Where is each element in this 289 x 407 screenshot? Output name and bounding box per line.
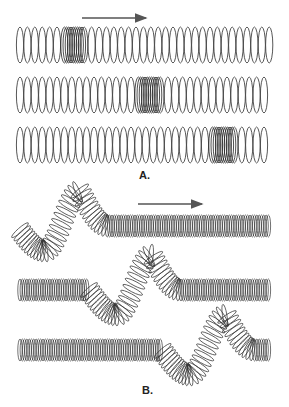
figure-canvas: [0, 0, 289, 407]
spring-row-a-3: [16, 127, 267, 163]
spring-row-a-2: [16, 77, 267, 113]
spring-row-b-3: [18, 304, 271, 386]
panel-a-label: A.: [139, 169, 150, 181]
panel-b-transverse-wave: [10, 181, 270, 386]
panel-b-label: B.: [142, 384, 153, 396]
spring-row-b-2: [18, 244, 271, 326]
panel-a-longitudinal-wave: [16, 27, 272, 163]
spring-row-a-1: [16, 27, 272, 63]
spring-row-b-1: [10, 181, 270, 262]
